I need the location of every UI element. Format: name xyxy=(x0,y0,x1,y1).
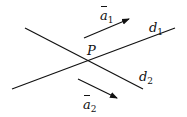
diagram: P d1 d2 a1 a2 xyxy=(0,0,187,117)
line-d2 xyxy=(25,28,143,89)
vector-label-subscript: 2 xyxy=(91,104,97,114)
vector-label-subscript: 1 xyxy=(108,15,114,25)
point-p-label: P xyxy=(87,44,96,57)
vector-a2-label: a2 xyxy=(83,98,97,114)
vector-a1-overbar xyxy=(101,6,107,7)
vector-label-text: a xyxy=(100,8,108,23)
point-label-text: P xyxy=(87,43,96,58)
line-label-subscript: 2 xyxy=(147,76,153,86)
line-d2-label: d2 xyxy=(139,70,153,86)
vector-a1-label: a1 xyxy=(100,9,114,25)
vector-a2-overbar xyxy=(84,95,90,96)
line-label-subscript: 1 xyxy=(157,27,163,37)
line-d1-label: d1 xyxy=(149,21,163,37)
vector-label-text: a xyxy=(83,97,91,112)
